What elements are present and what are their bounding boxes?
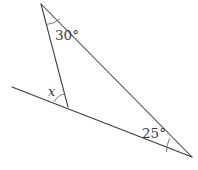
- geometry-figure: 30° 25° x: [0, 0, 198, 170]
- angle-label-unknown: x: [48, 85, 55, 98]
- angle-label-apex: 30°: [55, 29, 79, 43]
- angle-arc-unknown: [54, 94, 64, 102]
- angle-arc-apex: [47, 19, 60, 24]
- segment-base-extended: [12, 87, 192, 157]
- geometry-canvas: [0, 0, 198, 170]
- angle-arc-right-vertex: [166, 139, 169, 152]
- angle-label-right-vertex: 25°: [142, 127, 166, 141]
